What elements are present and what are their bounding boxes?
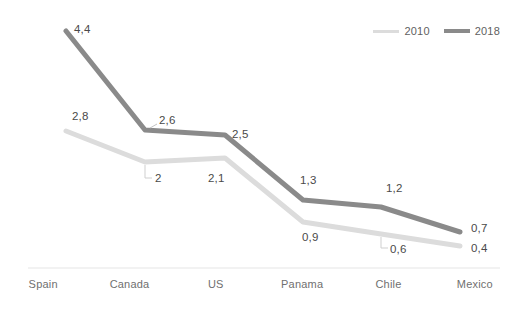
chart-legend: 2010 2018 (373, 22, 500, 40)
legend-label-2010: 2010 (404, 26, 429, 37)
data-label-2018-canada: 2,6 (159, 114, 176, 126)
leader-line-canada-2018 (150, 124, 157, 128)
legend-swatch-icon-2018 (444, 29, 470, 33)
leader-line-chile-2010 (381, 237, 388, 248)
data-label-2018-us: 2,5 (232, 128, 249, 140)
legend-label-2018: 2018 (475, 26, 500, 37)
x-axis-label-mexico: Mexico (432, 278, 518, 302)
chart-plot-area (0, 0, 518, 310)
data-label-2010-panama: 0,9 (302, 231, 319, 243)
x-axis-label-spain: Spain (0, 278, 86, 302)
x-axis-label-chile: Chile (345, 278, 431, 302)
x-axis-label-canada: Canada (86, 278, 172, 302)
data-label-2018-panama: 1,3 (300, 174, 317, 186)
legend-entry-2018[interactable]: 2018 (444, 26, 500, 37)
data-label-2010-canada: 2 (155, 172, 162, 184)
line-chart: 4,4 2,6 2,5 1,3 1,2 0,7 2,8 2 2,1 0,9 0,… (0, 0, 518, 310)
x-axis-label-us: US (173, 278, 259, 302)
data-label-2010-chile: 0,6 (390, 243, 407, 255)
data-label-2018-mexico: 0,7 (471, 222, 488, 234)
legend-entry-2010[interactable]: 2010 (373, 26, 429, 37)
series-line-2018 (66, 31, 460, 232)
data-label-2018-spain: 4,4 (74, 23, 91, 35)
data-label-2010-us: 2,1 (208, 172, 225, 184)
x-axis-label-panama: Panama (259, 278, 345, 302)
legend-swatch-icon-2010 (373, 30, 399, 33)
data-label-2010-spain: 2,8 (72, 110, 89, 122)
data-label-2018-chile: 1,2 (386, 182, 403, 194)
data-label-2010-mexico: 0,4 (471, 242, 488, 254)
x-axis-category-labels: Spain Canada US Panama Chile Mexico (0, 278, 518, 302)
leader-line-canada-2010 (145, 165, 152, 178)
